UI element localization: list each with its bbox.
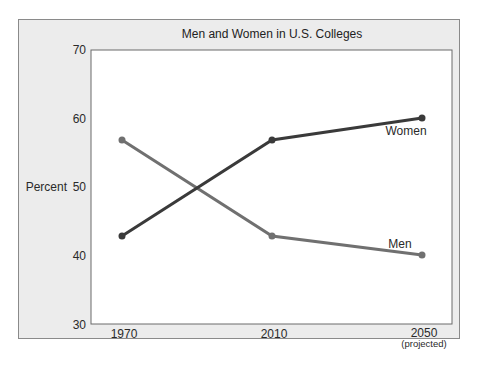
y-axis-label: Percent xyxy=(26,180,68,194)
x-tick-2010: 2010 xyxy=(261,327,288,341)
line-chart: Men and Women in U.S. Colleges 70 60 50 … xyxy=(0,0,484,373)
x-tick-2050-sublabel: (projected) xyxy=(401,338,446,349)
men-point-2050 xyxy=(419,252,426,259)
women-series-label: Women xyxy=(385,124,426,138)
y-tick-60: 60 xyxy=(73,112,87,126)
men-point-1970 xyxy=(119,137,126,144)
men-series-label: Men xyxy=(388,237,411,251)
y-tick-70: 70 xyxy=(73,43,87,57)
y-tick-40: 40 xyxy=(73,249,87,263)
chart-title: Men and Women in U.S. Colleges xyxy=(182,27,363,41)
women-point-2050 xyxy=(419,115,426,122)
women-point-2010 xyxy=(269,137,276,144)
plot-area xyxy=(91,50,452,324)
y-tick-50: 50 xyxy=(73,180,87,194)
women-point-1970 xyxy=(119,233,126,240)
x-tick-1970: 1970 xyxy=(111,327,138,341)
y-tick-30: 30 xyxy=(73,318,87,332)
men-point-2010 xyxy=(269,233,276,240)
